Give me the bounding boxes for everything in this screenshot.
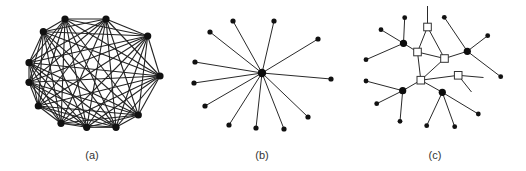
edge <box>233 21 262 73</box>
leaf-node <box>230 18 235 23</box>
leaf-node <box>202 103 207 108</box>
star-graph-nodes <box>191 18 333 131</box>
panel-c-hub-switch-graph <box>364 6 504 129</box>
edge <box>29 82 61 123</box>
edge <box>400 91 403 122</box>
edge <box>444 17 467 51</box>
leaf-node <box>402 15 407 20</box>
node <box>112 124 119 131</box>
edge <box>262 73 308 117</box>
edge <box>404 18 405 44</box>
switch-node <box>414 48 422 56</box>
switch-node <box>417 76 425 84</box>
complete-graph-edges <box>29 19 160 127</box>
edge <box>427 92 443 125</box>
leaf-node <box>498 74 503 79</box>
leaf-node <box>192 59 197 64</box>
panel-a-caption: (a) <box>85 149 98 161</box>
hub-node <box>399 87 406 94</box>
switch-node <box>424 23 432 31</box>
edge <box>262 73 284 129</box>
switch-node <box>441 55 449 63</box>
panel-c-caption: (c) <box>429 149 442 161</box>
network-topology-figure <box>0 0 526 171</box>
edge <box>262 39 318 73</box>
leaf-node <box>305 114 310 119</box>
switch-node <box>454 72 462 80</box>
node <box>25 59 32 66</box>
leaf-node <box>328 76 333 81</box>
edge <box>366 81 403 91</box>
panel-b-star-graph <box>191 18 333 131</box>
node <box>135 111 142 118</box>
hub-switch-graph-edges <box>366 6 501 127</box>
leaf-node <box>476 112 481 117</box>
node <box>102 15 109 22</box>
leaf-node <box>485 33 490 38</box>
node <box>57 120 64 127</box>
leaf-node <box>364 57 369 62</box>
panel-a-complete-graph <box>25 15 163 131</box>
node <box>156 72 163 79</box>
hub-node <box>464 48 471 55</box>
edge <box>262 21 274 73</box>
center-node <box>258 69 266 77</box>
edge <box>428 27 445 59</box>
edge <box>381 30 404 44</box>
hub-node <box>439 89 446 96</box>
node <box>83 124 90 131</box>
leaf-node <box>374 101 379 106</box>
edge <box>138 76 160 115</box>
node <box>144 32 151 39</box>
leaf-node <box>207 29 212 34</box>
node <box>25 79 32 86</box>
leaf-node <box>398 119 403 124</box>
edge <box>210 32 262 73</box>
leaf-node <box>281 126 286 131</box>
leaf-node <box>379 27 384 32</box>
edge <box>366 43 404 59</box>
edge <box>205 73 262 106</box>
edge <box>421 75 458 80</box>
edge <box>195 62 262 73</box>
leaf-node <box>315 36 320 41</box>
hub-node <box>400 40 407 47</box>
edge <box>106 19 148 36</box>
edge <box>377 91 403 104</box>
edge <box>194 73 262 83</box>
edge <box>262 73 331 79</box>
node <box>35 102 42 109</box>
edge <box>442 92 478 114</box>
leaf-node <box>442 15 447 20</box>
leaf-node <box>424 123 429 128</box>
node <box>61 15 68 22</box>
edge <box>106 19 160 76</box>
edge <box>467 51 500 76</box>
panel-b-caption: (b) <box>255 149 268 161</box>
leaf-node <box>191 80 196 85</box>
leaf-node <box>452 124 457 129</box>
leaf-node <box>364 79 369 84</box>
node <box>40 28 47 35</box>
edge <box>467 36 487 52</box>
edge <box>442 92 454 126</box>
leaf-node <box>271 18 276 23</box>
leaf-node <box>226 122 231 127</box>
leaf-node <box>253 125 258 130</box>
